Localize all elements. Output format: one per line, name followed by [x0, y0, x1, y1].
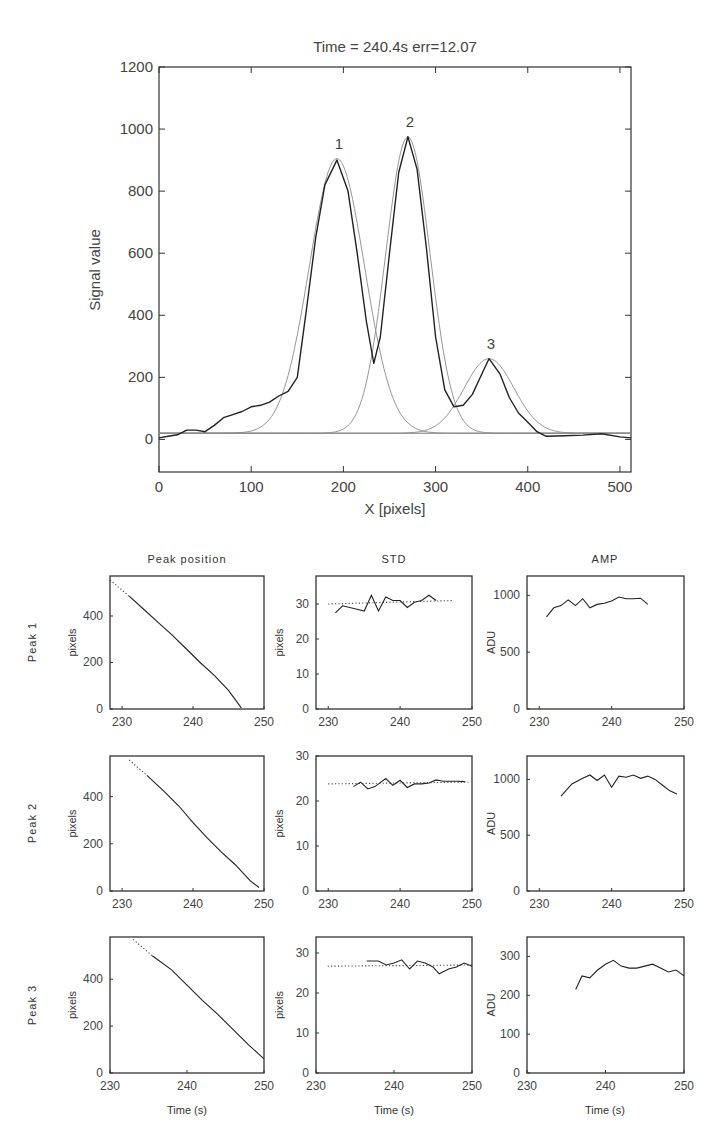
y-tick-label: 100	[500, 1027, 520, 1041]
x-tick-label: 250	[674, 897, 694, 911]
series-solid-line	[576, 960, 684, 989]
series-dotted-line	[328, 601, 454, 605]
y-tick-label: 20	[296, 794, 310, 808]
y-tick-label: 0	[302, 1066, 309, 1080]
y-tick-label: 10	[296, 839, 310, 853]
subplot-r3c1: 2302402500200400pixels	[66, 937, 274, 1093]
x-tick-label: 240	[602, 715, 622, 729]
x-tick-label: 240	[390, 715, 410, 729]
x-tick-label: 240	[390, 897, 410, 911]
y-tick-label: 600	[128, 244, 153, 261]
row-label-peak-2: Peak 2	[26, 803, 38, 843]
x-tick-label: 240	[177, 1079, 197, 1093]
gaussian-fit-peak-2	[159, 137, 631, 433]
y-tick-label: 400	[83, 972, 103, 986]
y-tick-label: 0	[513, 702, 520, 716]
subplot-r1c2: 2302402500102030pixels	[273, 576, 482, 729]
y-tick-label: 1000	[493, 772, 520, 786]
x-tick-label: 0	[155, 478, 163, 495]
subplot-r1c3: 23024025005001000ADU	[485, 576, 694, 729]
subplot-ylabel: pixels	[273, 990, 285, 1019]
y-tick-label: 10	[296, 1026, 310, 1040]
y-tick-label: 200	[83, 655, 103, 669]
y-tick-label: 0	[145, 430, 153, 447]
subplot-ylabel: pixels	[273, 628, 285, 657]
x-tick-label: 250	[462, 897, 482, 911]
axes-frame	[159, 67, 631, 472]
row-label-peak-3: Peak 3	[26, 985, 38, 1025]
x-tick-label: 230	[529, 715, 549, 729]
y-tick-label: 20	[296, 986, 310, 1000]
series-dotted-line	[328, 965, 472, 966]
axes-frame	[316, 576, 472, 709]
y-tick-label: 500	[500, 828, 520, 842]
peak-tracking-subplots: 2302402500200400pixels2302402500102030pi…	[66, 576, 694, 1093]
axes-frame	[527, 937, 684, 1073]
series-solid-line	[147, 775, 259, 887]
x-tick-label: 230	[100, 1079, 120, 1093]
subplot-r1c1: 2302402500200400pixels	[66, 576, 274, 729]
y-tick-label: 0	[302, 702, 309, 716]
x-tick-label: 230	[318, 715, 338, 729]
series-solid-line	[152, 956, 264, 1059]
y-tick-label: 1000	[120, 120, 153, 137]
time-label-col3: Time (s)	[585, 1104, 625, 1116]
y-tick-label: 20	[296, 632, 310, 646]
y-tick-label: 0	[96, 1066, 103, 1080]
x-tick-label: 250	[462, 715, 482, 729]
x-tick-label: 250	[462, 1079, 482, 1093]
x-tick-label: 200	[331, 478, 356, 495]
x-tick-label: 500	[607, 478, 632, 495]
y-tick-label: 500	[500, 645, 520, 659]
axes-frame	[110, 937, 264, 1073]
x-tick-label: 230	[306, 1079, 326, 1093]
x-tick-label: 240	[595, 1079, 615, 1093]
x-tick-label: 250	[674, 715, 694, 729]
y-tick-label: 400	[83, 609, 103, 623]
subplot-r3c3: 2302402500100200300ADU	[485, 937, 694, 1093]
axes-frame	[316, 756, 472, 891]
y-tick-label: 400	[83, 790, 103, 804]
col-title-peak-position: Peak position	[147, 553, 226, 565]
y-tick-label: 1200	[120, 58, 153, 75]
x-tick-label: 300	[423, 478, 448, 495]
axes-frame	[527, 576, 684, 709]
y-tick-label: 0	[302, 884, 309, 898]
time-label-col2: Time (s)	[374, 1104, 414, 1116]
subplot-ylabel: ADU	[485, 631, 497, 654]
time-label-col1: Time (s)	[167, 1104, 207, 1116]
series-solid-line	[335, 595, 436, 613]
subplot-r2c2: 2302402500102030pixels	[273, 749, 482, 911]
series-dotted-line	[110, 580, 129, 596]
subplot-ylabel: pixels	[66, 628, 78, 657]
peak-label-3: 3	[487, 335, 495, 352]
x-tick-label: 240	[384, 1079, 404, 1093]
y-tick-label: 0	[96, 884, 103, 898]
y-tick-label: 200	[128, 368, 153, 385]
x-tick-label: 230	[529, 897, 549, 911]
x-tick-label: 230	[318, 897, 338, 911]
series-dotted-line	[133, 939, 152, 956]
series-dotted-line	[129, 760, 147, 775]
axes-frame	[110, 576, 264, 709]
x-tick-label: 400	[515, 478, 540, 495]
subplot-ylabel: ADU	[485, 812, 497, 835]
y-tick-label: 0	[513, 1066, 520, 1080]
x-tick-label: 100	[239, 478, 264, 495]
y-tick-label: 1000	[493, 588, 520, 602]
gaussian-fit-peak-3	[159, 359, 631, 434]
series-solid-line	[561, 775, 677, 796]
x-tick-label: 240	[183, 715, 203, 729]
y-tick-label: 30	[296, 597, 310, 611]
axes-frame	[316, 937, 472, 1073]
main-signal-plot: 0100200300400500020040060080010001200123	[120, 58, 633, 495]
x-tick-label: 250	[254, 1079, 274, 1093]
x-tick-label: 240	[183, 897, 203, 911]
x-tick-label: 230	[112, 715, 132, 729]
y-tick-label: 30	[296, 749, 310, 763]
x-tick-label: 230	[112, 897, 132, 911]
peak-label-2: 2	[406, 113, 414, 130]
y-tick-label: 300	[500, 949, 520, 963]
subplot-ylabel: pixels	[273, 809, 285, 838]
subplot-ylabel: pixels	[66, 809, 78, 838]
